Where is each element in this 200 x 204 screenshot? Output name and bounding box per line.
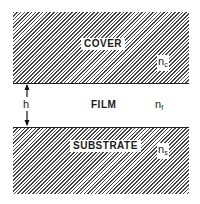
substrate-layer: SUBSTRATE ns	[13, 127, 189, 194]
cover-index-label: nc	[157, 55, 169, 71]
film-index-label: nf	[154, 98, 164, 114]
thickness-label: h	[23, 97, 29, 111]
film-label: FILM	[91, 99, 116, 110]
substrate-index-label: ns	[157, 143, 169, 159]
substrate-label: SUBSTRATE	[70, 140, 141, 152]
cover-layer: COVER nc	[13, 12, 189, 84]
cover-label: COVER	[81, 38, 125, 50]
